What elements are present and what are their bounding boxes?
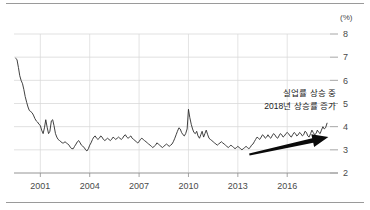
y-tick-label: 2 xyxy=(343,168,348,178)
chart-figure: 8765432 200120042007201020132016 (%) 실업률… xyxy=(0,0,370,210)
x-tick-label: 2007 xyxy=(129,181,149,191)
unemployment-rate-line-chart: 8765432 200120042007201020132016 (%) 실업률… xyxy=(0,0,370,210)
x-tick-label: 2013 xyxy=(228,181,248,191)
annotation-line-2: 2018년 상승률 증가 xyxy=(264,101,336,111)
x-tick-label: 2016 xyxy=(277,181,297,191)
y-tick-label: 7 xyxy=(343,52,348,62)
x-tick-label: 2001 xyxy=(30,181,50,191)
x-tick-label: 2004 xyxy=(80,181,100,191)
y-axis-unit-label: (%) xyxy=(340,13,353,22)
y-tick-label: 6 xyxy=(343,76,348,86)
annotation-line-1: 실업률 상승 중 xyxy=(283,88,336,98)
y-tick-label: 4 xyxy=(343,122,348,132)
y-axis-tick-labels-group: 8765432 xyxy=(343,29,348,178)
x-axis-group xyxy=(14,173,338,177)
y-tick-label: 5 xyxy=(343,99,348,109)
y-tick-label: 3 xyxy=(343,145,348,155)
y-tick-label: 8 xyxy=(343,29,348,39)
x-tick-label: 2010 xyxy=(178,181,198,191)
x-axis-tick-labels-group: 200120042007201020132016 xyxy=(30,181,297,191)
